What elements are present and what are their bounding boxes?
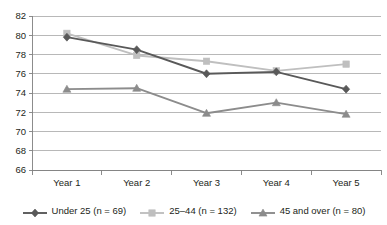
x-tick-label: Year 5 (333, 177, 360, 188)
x-tick-label: Year 2 (123, 177, 150, 188)
legend-item[interactable]: 45 and over (n = 80) (250, 205, 366, 217)
x-tick-labels: Year 1Year 2Year 3Year 4Year 5 (53, 177, 359, 188)
data-point-square (343, 61, 349, 67)
data-point-diamond (343, 85, 350, 93)
legend-marker-triangle-icon (250, 205, 276, 217)
chart-canvas: 666870727476788082 Year 1Year 2Year 3Yea… (0, 0, 387, 197)
y-tick-labels: 666870727476788082 (15, 10, 26, 175)
y-tick-label: 68 (15, 145, 26, 156)
y-tick-label: 78 (15, 49, 26, 60)
y-tick-label: 72 (15, 107, 26, 118)
legend-marker-square-icon (139, 205, 165, 217)
y-axis (29, 16, 33, 170)
y-tick-label: 76 (15, 68, 26, 79)
y-tick-label: 82 (15, 10, 26, 21)
y-tick-label: 66 (15, 164, 26, 175)
data-point-square (149, 210, 155, 216)
legend-marker-diamond-icon (22, 205, 48, 217)
series (64, 30, 350, 74)
legend-label: 45 and over (n = 80) (280, 205, 366, 217)
data-point-diamond (203, 70, 210, 78)
y-tick-label: 80 (15, 30, 26, 41)
chart-legend: Under 25 (n = 69)25–44 (n = 132)45 and o… (0, 197, 387, 225)
y-tick-label: 70 (15, 126, 26, 137)
x-tick-label: Year 1 (53, 177, 80, 188)
line-chart: 666870727476788082 Year 1Year 2Year 3Yea… (0, 0, 387, 225)
y-tick-label: 74 (15, 87, 26, 98)
legend-item[interactable]: Under 25 (n = 69) (22, 205, 127, 217)
plot-area: 666870727476788082 Year 1Year 2Year 3Yea… (0, 0, 387, 197)
x-axis (32, 170, 381, 175)
legend-item[interactable]: 25–44 (n = 132) (139, 205, 236, 217)
legend-label: Under 25 (n = 69) (52, 205, 127, 217)
series-line (67, 33, 346, 71)
legend-label: 25–44 (n = 132) (169, 205, 236, 217)
x-tick-label: Year 3 (193, 177, 220, 188)
x-tick-label: Year 4 (263, 177, 290, 188)
data-point-square (203, 58, 209, 64)
data-point-diamond (31, 209, 38, 217)
